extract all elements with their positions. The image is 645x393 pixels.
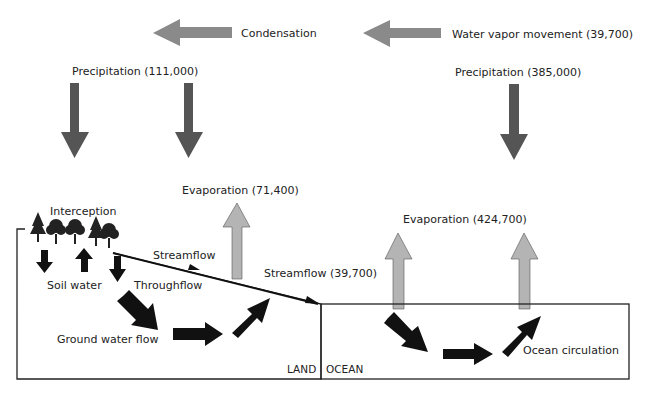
evaporation-ocean-arrow-icon (385, 233, 412, 309)
percolation-arrow-icon (109, 256, 126, 282)
precipitation-land-label: Precipitation (111,000) (72, 65, 198, 78)
ocean-right-arrow-icon (443, 343, 493, 365)
groundwater-right-arrow-icon (173, 322, 223, 346)
uptake-arrow-icon (75, 248, 93, 272)
water-vapor-arrow-icon (363, 20, 441, 47)
evaporation-land-label: Evaporation (71,400) (182, 184, 299, 197)
precipitation-ocean-arrow-icon (500, 84, 528, 160)
streamflow-label: Streamflow (153, 249, 215, 262)
land-region-label: LAND (287, 363, 316, 375)
ocean-outline (321, 304, 629, 379)
precipitation-land-arrow-icon (61, 83, 89, 158)
precipitation-ocean-label: Precipitation (385,000) (455, 66, 581, 79)
groundwater-down-arrow-icon (117, 290, 158, 330)
water-vapor-label: Water vapor movement (39,700) (452, 28, 633, 41)
water-cycle-diagram: Condensation Water vapor movement (39,70… (0, 0, 645, 393)
soil-water-label: Soil water (47, 279, 102, 292)
interception-label: Interception (50, 205, 116, 218)
groundwater-up-arrow-icon (232, 298, 270, 338)
streamflow-total-label: Streamflow (39,700) (264, 267, 377, 280)
ocean-circulation-label: Ocean circulation (523, 344, 619, 357)
ocean-down-arrow-icon (384, 312, 428, 352)
evaporation-land-arrow-icon (223, 203, 250, 279)
evaporation-ocean-label: Evaporation (424,700) (403, 213, 527, 226)
precipitation-land-arrow-icon (175, 83, 203, 158)
evaporation-ocean-arrow-icon (511, 233, 538, 309)
condensation-label: Condensation (241, 27, 317, 40)
throughflow-label: Throughflow (133, 279, 202, 292)
infiltration-arrow-icon (36, 250, 53, 273)
ocean-region-label: OCEAN (326, 363, 363, 375)
condensation-arrow-icon (153, 19, 232, 46)
ground-water-flow-label: Ground water flow (57, 333, 158, 346)
